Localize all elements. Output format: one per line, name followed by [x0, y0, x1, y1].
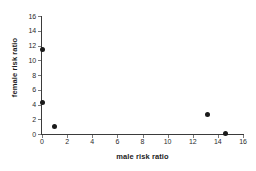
y-tick-label-text: 6 — [22, 86, 36, 93]
x-tick-label: 12 — [186, 138, 200, 146]
y-tick-label: 8 — [22, 72, 36, 79]
data-point — [52, 124, 57, 129]
y-tick-mark — [38, 90, 41, 91]
data-point — [223, 131, 228, 136]
y-tick-label-text: 8 — [22, 72, 36, 79]
y-tick-label-text: 16 — [22, 13, 36, 20]
y-tick-mark — [38, 60, 41, 61]
x-tick-label: 2 — [60, 138, 74, 146]
x-tick-label: 0 — [35, 138, 49, 146]
y-tick-label: 10 — [22, 57, 36, 64]
y-tick-mark — [38, 119, 41, 120]
y-tick-label: 6 — [22, 86, 36, 93]
y-tick-label-text: 2 — [22, 116, 36, 123]
data-point — [40, 100, 45, 105]
y-tick-label: 12 — [22, 42, 36, 49]
y-tick-label: 14 — [22, 27, 36, 34]
y-tick-mark — [38, 134, 41, 135]
y-tick-label-text: 14 — [22, 27, 36, 34]
y-tick-mark — [38, 31, 41, 32]
y-tick-label-text: 12 — [22, 42, 36, 49]
x-tick-label: 14 — [211, 138, 225, 146]
plot-area — [42, 16, 243, 134]
x-tick-label: 4 — [85, 138, 99, 146]
y-axis-title: female risk ratio — [10, 18, 19, 118]
y-tick-label-text: 0 — [22, 131, 36, 138]
y-tick-label: 0 — [22, 131, 36, 138]
y-tick-mark — [38, 75, 41, 76]
x-tick-label: 6 — [110, 138, 124, 146]
y-tick-label-text: 4 — [22, 101, 36, 108]
x-axis-title: male risk ratio — [42, 152, 243, 161]
data-point — [40, 47, 45, 52]
scatter-chart: 0246810121416 0246810121416 male risk ra… — [0, 0, 256, 171]
x-tick-label: 8 — [136, 138, 150, 146]
x-tick-label: 16 — [236, 138, 250, 146]
y-tick-mark — [38, 16, 41, 17]
y-tick-label-text: 10 — [22, 57, 36, 64]
data-point — [205, 112, 210, 117]
y-tick-label: 16 — [22, 13, 36, 20]
y-tick-label: 4 — [22, 101, 36, 108]
y-tick-label: 2 — [22, 116, 36, 123]
x-tick-label: 10 — [161, 138, 175, 146]
